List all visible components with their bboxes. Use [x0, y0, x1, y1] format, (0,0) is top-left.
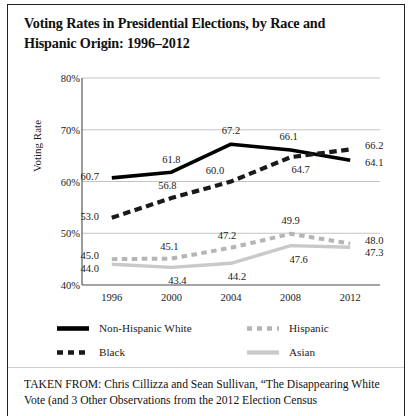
- legend-label: Black: [99, 346, 125, 358]
- data-label: 67.2: [222, 125, 240, 136]
- x-axis-tick-label: 1996: [101, 292, 122, 303]
- x-axis-tick-label: 2000: [161, 292, 182, 303]
- caption-divider: [8, 367, 404, 368]
- chart-legend: Non-Hispanic White Hispanic Black Asian: [56, 322, 386, 364]
- data-label: 56.8: [158, 180, 176, 191]
- data-label: 64.1: [365, 157, 383, 168]
- figure-caption: TAKEN FROM: Chris Cillizza and Sean Sull…: [24, 377, 384, 410]
- legend-label: Non-Hispanic White: [99, 322, 192, 334]
- x-axis-tick-label: 2008: [280, 292, 301, 303]
- data-label: 66.2: [365, 140, 383, 151]
- data-label: 43.4: [168, 275, 186, 286]
- data-label: 61.8: [162, 154, 180, 165]
- x-axis-tick-label: 2012: [340, 292, 361, 303]
- data-label: 49.9: [281, 214, 299, 225]
- data-label: 47.2: [218, 229, 236, 240]
- data-label: 47.6: [289, 253, 307, 264]
- data-label: 60.0: [206, 164, 224, 175]
- x-axis-tick-label: 2004: [221, 292, 242, 303]
- data-label: 44.2: [228, 271, 246, 282]
- data-label: 45.0: [81, 250, 99, 261]
- data-label: 64.7: [291, 164, 309, 175]
- legend-item-hispanic: Hispanic: [246, 322, 329, 334]
- data-label: 60.7: [81, 170, 99, 181]
- legend-item-non-hispanic-white: Non-Hispanic White: [56, 322, 192, 334]
- data-label: 48.0: [365, 234, 383, 245]
- legend-label: Hispanic: [289, 322, 329, 334]
- legend-swatch-dashed-black-icon: [56, 347, 90, 358]
- legend-swatch-solid-gray-icon: [246, 347, 280, 358]
- legend-swatch-solid-black-icon: [56, 323, 90, 334]
- legend-item-asian: Asian: [246, 346, 315, 358]
- data-label: 66.1: [279, 130, 297, 141]
- data-label: 47.3: [365, 247, 383, 258]
- figure-page: Voting Rates in Presidential Elections, …: [0, 0, 413, 416]
- legend-swatch-dashed-gray-icon: [246, 323, 280, 334]
- legend-item-black: Black: [56, 346, 125, 358]
- data-label: 53.0: [81, 210, 99, 221]
- data-label: 44.0: [81, 263, 99, 274]
- data-label: 45.1: [160, 240, 178, 251]
- legend-label: Asian: [289, 346, 315, 358]
